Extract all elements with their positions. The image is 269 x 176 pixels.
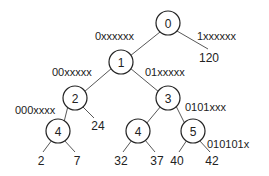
- leaf-value: 24: [91, 119, 105, 133]
- node-label: 1: [118, 56, 125, 70]
- node-label: 4: [135, 125, 142, 139]
- tree-edge: [64, 140, 75, 152]
- tree-node-n5: 5: [181, 119, 205, 143]
- node-label: 0: [165, 17, 172, 31]
- node-label: 4: [55, 125, 62, 139]
- tree-node-n1: 1: [109, 50, 133, 74]
- leaf-value: 37: [150, 154, 164, 168]
- leaf-value: 40: [170, 154, 184, 168]
- tree-node-n2: 2: [63, 86, 87, 110]
- tree-edge: [123, 140, 132, 152]
- tree-edge: [130, 32, 160, 56]
- tree-edge: [176, 106, 185, 124]
- leaf-value: 42: [205, 154, 219, 168]
- tree-edge: [64, 106, 68, 122]
- tree-node-n4b: 4: [126, 119, 150, 143]
- tree-edge: [82, 106, 94, 118]
- edge-prefix-label: 0xxxxxx: [95, 30, 135, 42]
- edge-prefix-label: 01xxxxx: [145, 66, 185, 78]
- leaf-value: 7: [74, 154, 81, 168]
- leaf-value: 120: [199, 51, 219, 65]
- tree-edge: [146, 106, 161, 124]
- tree-edge: [43, 140, 52, 152]
- node-label: 5: [190, 125, 197, 139]
- edge-prefix-label: 010101x: [207, 138, 250, 150]
- trie-diagram: 0123445 120242732374042 0xxxxxx1xxxxxx00…: [0, 0, 269, 176]
- node-label: 3: [165, 92, 172, 106]
- tree-edge: [145, 140, 155, 152]
- edge-prefix-label: 00xxxxx: [52, 66, 92, 78]
- edge-prefix-label: 0101xxx: [185, 101, 226, 113]
- tree-node-n0: 0: [156, 11, 180, 35]
- tree-edge: [179, 140, 187, 152]
- tree-node-n3: 3: [156, 86, 180, 110]
- tree-node-n4a: 4: [46, 119, 70, 143]
- node-label: 2: [72, 92, 79, 106]
- edge-prefix-label: 1xxxxxx: [197, 30, 237, 42]
- leaf-value: 2: [38, 154, 45, 168]
- edge-prefix-label: 000xxxx: [15, 104, 56, 116]
- leaf-value: 32: [114, 154, 128, 168]
